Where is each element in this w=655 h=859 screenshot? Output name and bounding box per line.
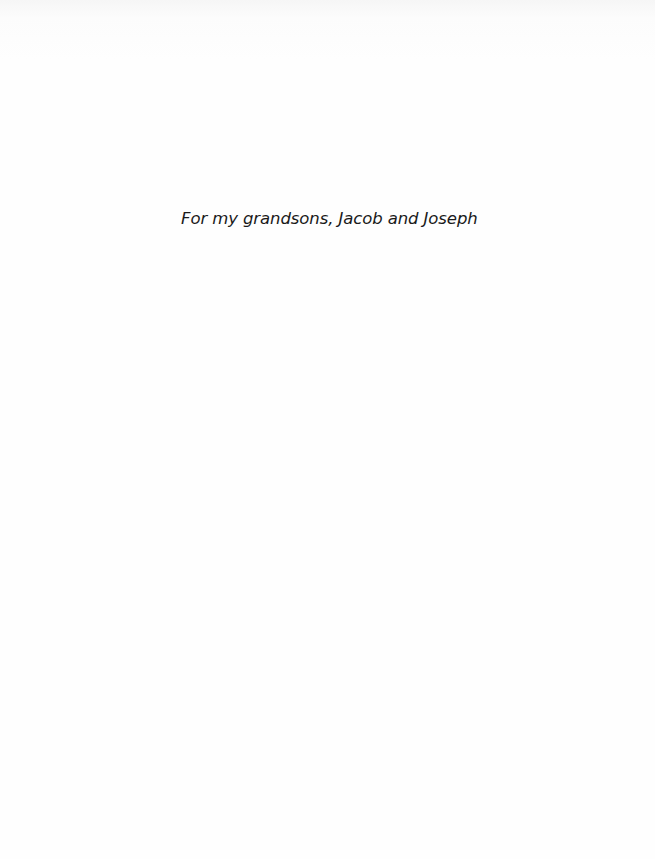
book-page: For my grandsons, Jacob and Joseph <box>0 0 655 859</box>
dedication-text: For my grandsons, Jacob and Joseph <box>181 209 478 228</box>
